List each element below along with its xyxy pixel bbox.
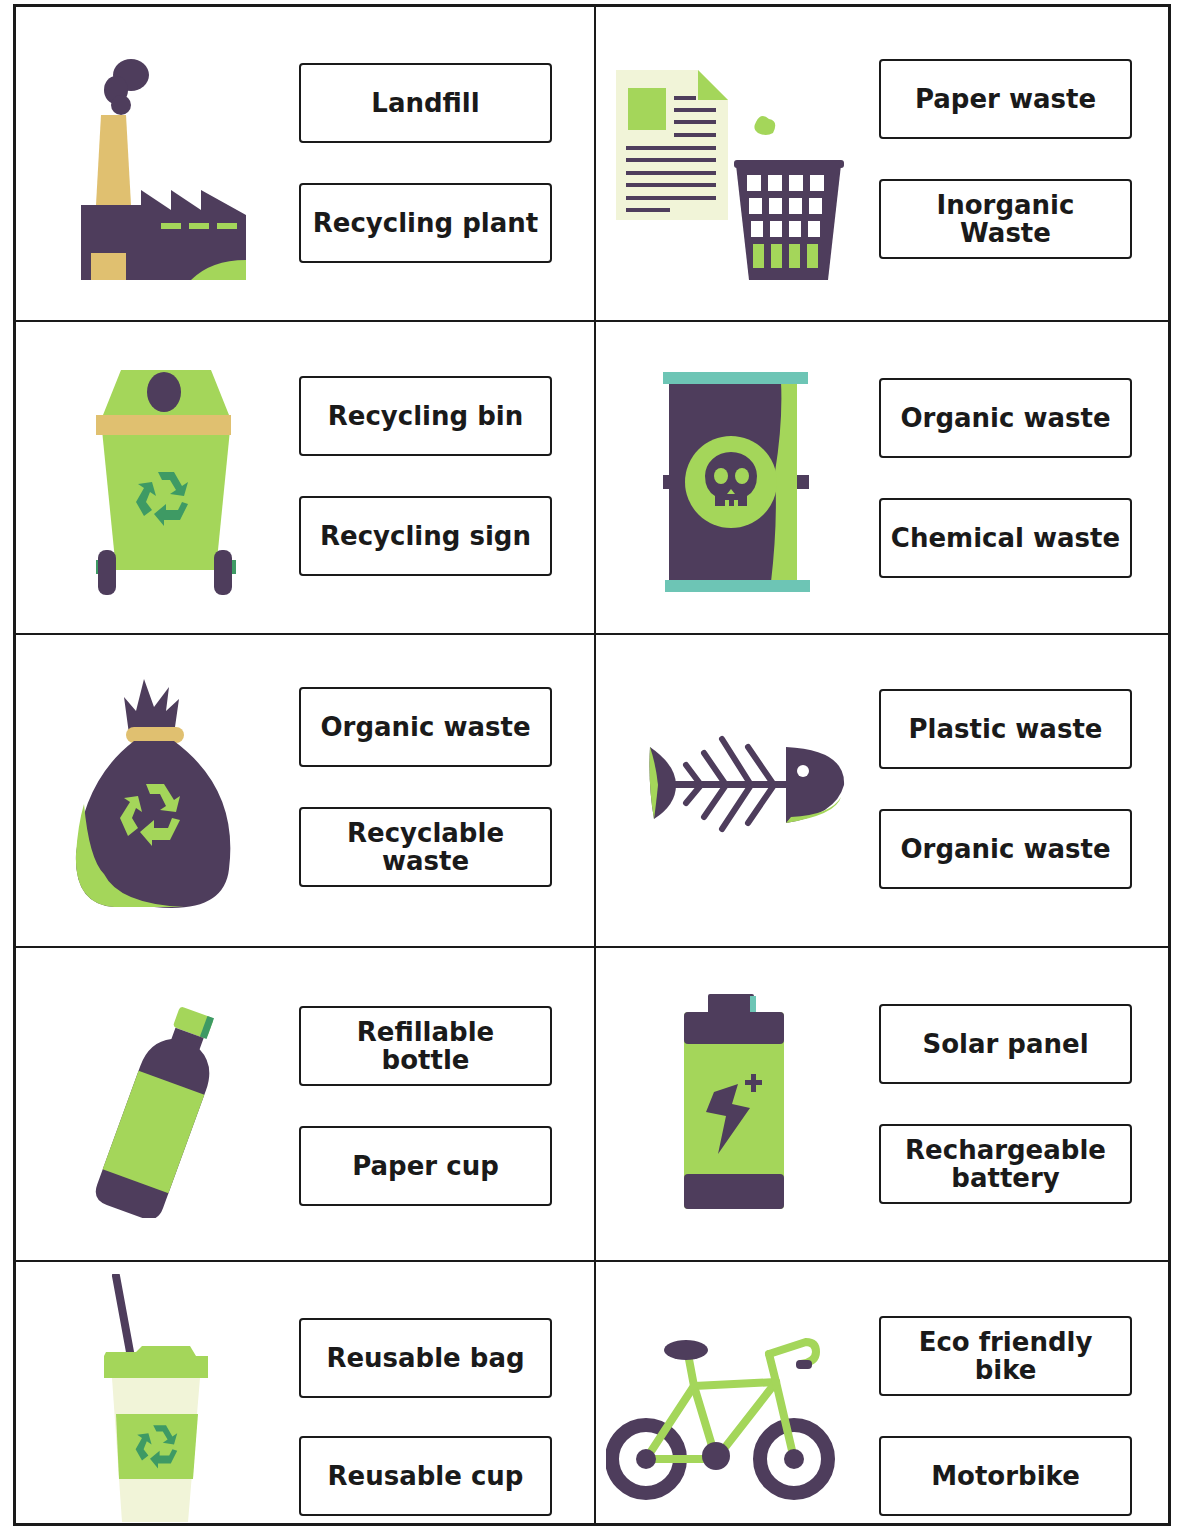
option-button[interactable]: Recycling plant: [299, 183, 552, 263]
garbage-bag-icon: [74, 679, 234, 914]
option-button[interactable]: Inorganic Waste: [879, 179, 1132, 259]
card-battery: Solar panel Rechargeable battery: [596, 948, 1168, 1262]
option-button[interactable]: Recyclable waste: [299, 807, 552, 887]
recycling-bin-icon: [96, 370, 236, 600]
card-garbage-bag: Organic waste Recyclable waste: [16, 635, 596, 948]
card-paper-waste: Paper waste Inorganic Waste: [596, 7, 1168, 322]
card-bicycle: Eco friendly bike Motorbike: [596, 1262, 1168, 1523]
option-button[interactable]: Plastic waste: [879, 689, 1132, 769]
option-button[interactable]: Organic waste: [879, 809, 1132, 889]
option-button[interactable]: Recycling sign: [299, 496, 552, 576]
bicycle-icon: [606, 1334, 846, 1524]
card-bottle: Refillable bottle Paper cup: [16, 948, 596, 1262]
option-button[interactable]: Recycling bin: [299, 376, 552, 456]
option-button[interactable]: Paper cup: [299, 1126, 552, 1206]
reusable-cup-icon: [100, 1274, 220, 1524]
card-factory: Landfill Recycling plant: [16, 7, 596, 322]
option-button[interactable]: Refillable bottle: [299, 1006, 552, 1086]
option-button[interactable]: Organic waste: [879, 378, 1132, 458]
paper-wastebasket-icon: [616, 55, 856, 305]
fish-bone-icon: [646, 735, 846, 835]
option-button[interactable]: Motorbike: [879, 1436, 1132, 1516]
card-fish-bone: Plastic waste Organic waste: [596, 635, 1168, 948]
option-button[interactable]: Reusable cup: [299, 1436, 552, 1516]
card-chemical-waste: Organic waste Chemical waste: [596, 322, 1168, 635]
bottle-icon: [88, 1003, 218, 1218]
option-button[interactable]: Eco friendly bike: [879, 1316, 1132, 1396]
option-button[interactable]: Reusable bag: [299, 1318, 552, 1398]
factory-icon: [71, 45, 271, 295]
option-button[interactable]: Organic waste: [299, 687, 552, 767]
battery-icon: [684, 994, 789, 1209]
card-recycling-bin: Recycling bin Recycling sign: [16, 322, 596, 635]
card-grid: Landfill Recycling plant: [16, 7, 1168, 1523]
toxic-barrel-icon: [663, 372, 813, 592]
option-button[interactable]: Paper waste: [879, 59, 1132, 139]
option-button[interactable]: Landfill: [299, 63, 552, 143]
option-button[interactable]: Rechargeable battery: [879, 1124, 1132, 1204]
worksheet: Landfill Recycling plant: [13, 4, 1171, 1526]
option-button[interactable]: Chemical waste: [879, 498, 1132, 578]
card-reusable-cup: Reusable bag Reusable cup: [16, 1262, 596, 1523]
option-button[interactable]: Solar panel: [879, 1004, 1132, 1084]
